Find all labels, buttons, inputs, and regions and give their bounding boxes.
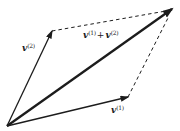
- dashed-edge-top: [52, 11, 166, 31]
- label-v1: v(1): [111, 105, 124, 115]
- label-sum-sup1: (1): [88, 29, 96, 36]
- vector-addition-diagram: v(2) v(1)+v(2) v(1): [0, 0, 180, 131]
- dashed-edge-right: [128, 16, 169, 97]
- label-sum: v(1)+v(2): [83, 30, 118, 40]
- vector-sum-arrow: [7, 9, 172, 126]
- diagram-canvas: [0, 0, 180, 131]
- label-sum-sup2: (2): [111, 29, 119, 36]
- label-v1-sup: (1): [116, 104, 124, 111]
- label-sum-plus: +: [96, 30, 106, 40]
- label-v2-sup: (2): [27, 42, 35, 49]
- label-v2: v(2): [22, 43, 35, 53]
- vector-v1-arrow: [7, 97, 128, 126]
